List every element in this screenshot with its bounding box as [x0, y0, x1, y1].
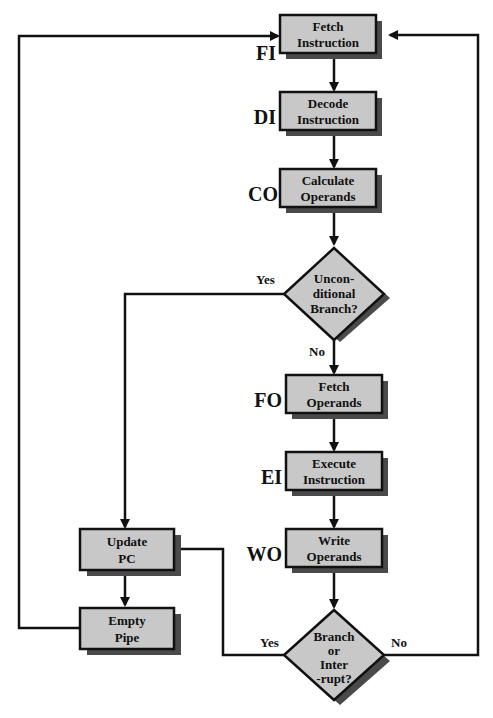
uncond-line1: Uncon- [314, 271, 354, 286]
brint-line1: Branch [313, 629, 355, 644]
fetch-instruction-line1: Fetch [312, 19, 344, 34]
stage-label-fo: FO [254, 389, 282, 411]
brint-line3: Inter [320, 657, 348, 672]
decode-instruction-line1: Decode [308, 96, 349, 111]
fetch-operands-line2: Operands [307, 395, 362, 410]
stage-label-wo: WO [246, 543, 282, 565]
write-operands-line2: Operands [307, 549, 362, 564]
stage-label-co: CO [248, 183, 278, 205]
brint-line2: or [328, 643, 341, 658]
uncond-line2: ditional [313, 286, 356, 301]
empty-pipe-line2: Pipe [115, 630, 140, 645]
brint-no-label: No [391, 635, 407, 650]
fetch-instruction-line2: Instruction [297, 35, 360, 50]
write-operands-line1: Write [318, 533, 350, 548]
execute-instruction-line1: Execute [312, 456, 356, 471]
stage-label-fi: FI [256, 42, 276, 64]
calculate-operands-line2: Operands [301, 189, 356, 204]
pipeline-flowchart: Fetch Instruction Decode Instruction Cal… [0, 0, 493, 718]
empty-pipe-line1: Empty [108, 613, 146, 628]
brint-line4: -rupt? [316, 671, 351, 686]
execute-instruction-line2: Instruction [303, 472, 366, 487]
update-pc-line2: PC [118, 551, 135, 566]
calculate-operands-line1: Calculate [302, 173, 355, 188]
uncond-yes-label: Yes [256, 272, 275, 287]
fetch-operands-line1: Fetch [318, 379, 350, 394]
stage-label-ei: EI [261, 466, 282, 488]
update-pc-line1: Update [107, 534, 148, 549]
decode-instruction-line2: Instruction [297, 112, 360, 127]
uncond-no-label: No [309, 344, 325, 359]
stage-label-di: DI [254, 106, 276, 128]
brint-yes-label: Yes [260, 635, 279, 650]
uncond-line3: Branch? [310, 301, 358, 316]
